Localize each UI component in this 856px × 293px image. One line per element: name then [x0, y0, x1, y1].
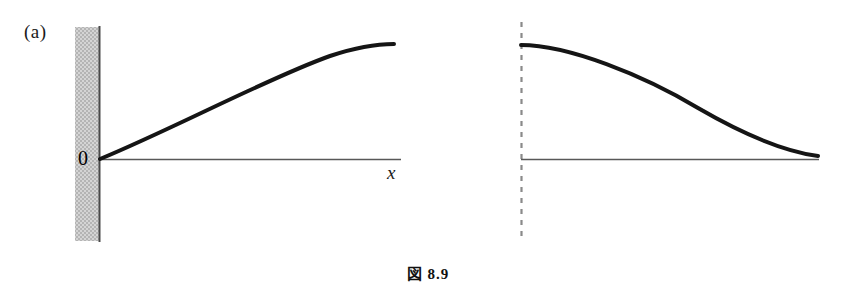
panel-a-graphic: [0, 0, 428, 293]
curve-a: [100, 44, 394, 159]
figure-container: (a) 0 x (b) 0 x 図 8.9: [0, 0, 856, 293]
wall-hatch: [75, 27, 99, 241]
panel-a: (a) 0 x: [0, 0, 428, 293]
origin-label-a: 0: [78, 148, 88, 168]
figure-caption: 図 8.9: [0, 262, 856, 283]
panel-b: (b) 0 x: [428, 0, 856, 293]
x-axis-label-a: x: [387, 163, 395, 182]
panel-b-graphic: [428, 0, 856, 293]
panel-a-label: (a): [24, 22, 47, 41]
curve-b: [521, 45, 818, 156]
figure-caption-text: 図 8.9: [407, 266, 450, 282]
